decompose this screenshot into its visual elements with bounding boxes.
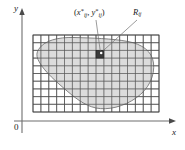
- origin-label: 0: [14, 123, 19, 132]
- subrectangle-label: Rij: [133, 8, 142, 17]
- figure-canvas: [0, 0, 185, 150]
- y-axis-arrowhead: [19, 8, 24, 15]
- x-axis-label: x: [172, 128, 176, 137]
- figure-container: (x*ij, y*ij) Rij y x 0: [0, 0, 185, 150]
- x-axis-arrowhead: [169, 118, 176, 123]
- highlighted-subrectangle: [96, 50, 104, 58]
- y-axis-label: y: [14, 4, 18, 13]
- sample-point-close-paren: ): [102, 7, 105, 17]
- region-blob-shape: [37, 37, 154, 108]
- sample-point-dot: [100, 52, 103, 55]
- sample-subrectangle-group: [96, 50, 104, 58]
- subrectangle-sub: ij: [138, 11, 141, 17]
- sample-point-label: (x*ij, y*ij): [74, 8, 105, 18]
